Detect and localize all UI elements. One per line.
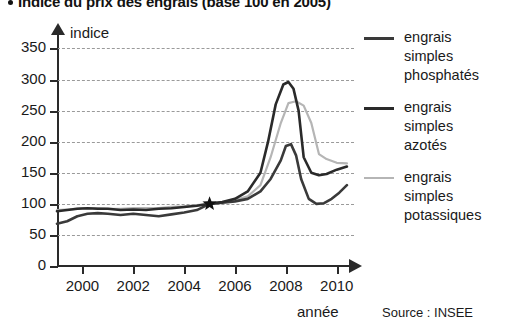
- y-tick-250: [50, 111, 58, 113]
- series-line-0: [57, 144, 347, 224]
- y-axis-line: [57, 33, 59, 266]
- y-tick-350: [50, 48, 58, 50]
- gridline-y-250: [57, 111, 354, 112]
- gridline-y-300: [57, 80, 354, 81]
- chart-title-strip: Indice du prix des engrais (base 100 en …: [0, 0, 519, 13]
- x-tick-2010: [337, 267, 339, 274]
- legend-label-line: phosphatés: [404, 66, 516, 85]
- y-axis-title: indice: [70, 24, 109, 41]
- x-axis-arrow-icon: [349, 259, 362, 273]
- bullet-icon: [8, 0, 13, 5]
- legend-item-0[interactable]: engraissimplesphosphatés: [364, 28, 516, 85]
- y-axis-arrow-icon: [51, 23, 65, 35]
- legend-label-line: simples: [404, 47, 516, 66]
- x-tick-2000: [82, 267, 84, 274]
- source-note: Source : INSEE: [382, 305, 473, 320]
- legend-label-line: azotés: [404, 136, 516, 155]
- y-tick-300: [50, 80, 58, 82]
- chart-title-text: Indice du prix des engrais (base 100 en …: [18, 0, 331, 10]
- x-tick-label-2010: 2010: [307, 277, 367, 294]
- legend-swatch-1: [364, 107, 394, 110]
- legend-label-0: engraissimplesphosphatés: [404, 28, 516, 85]
- legend-label-line: engrais: [404, 28, 516, 47]
- y-tick-200: [50, 142, 58, 144]
- y-tick-label-350: 350: [4, 38, 46, 55]
- legend-swatch-2: [364, 177, 394, 179]
- gridline-y-200: [57, 142, 354, 143]
- series-line-2: [57, 101, 347, 210]
- legend-item-1[interactable]: engraissimplesazotés: [364, 98, 516, 155]
- x-axis-line: [57, 265, 352, 267]
- x-tick-2006: [235, 267, 237, 274]
- gridline-y-350: [57, 48, 354, 49]
- y-tick-label-100: 100: [4, 194, 46, 211]
- gridline-y-150: [57, 173, 354, 174]
- y-tick-label-200: 200: [4, 132, 46, 149]
- x-tick-2008: [286, 267, 288, 274]
- legend-swatch-0: [364, 37, 394, 40]
- y-tick-100: [50, 204, 58, 206]
- page-title: Indice du prix des engrais (base 100 en …: [8, 0, 331, 10]
- legend-label-1: engraissimplesazotés: [404, 98, 516, 155]
- legend-label-line: engrais: [404, 98, 516, 117]
- y-tick-label-150: 150: [4, 163, 46, 180]
- y-tick-0: [50, 266, 58, 268]
- y-tick-label-250: 250: [4, 101, 46, 118]
- gridline-y-50: [57, 235, 354, 236]
- legend-label-line: simples: [404, 187, 516, 206]
- legend-label-2: engraissimplespotassiques: [404, 168, 516, 225]
- gridline-y-100: [57, 204, 354, 205]
- legend-label-line: simples: [404, 117, 516, 136]
- x-axis-title: année: [297, 303, 339, 320]
- legend-label-line: engrais: [404, 168, 516, 187]
- legend-item-2[interactable]: engraissimplespotassiques: [364, 168, 516, 225]
- chart-legend: engraissimplesphosphatésengraissimplesaz…: [364, 28, 516, 238]
- x-tick-2004: [184, 267, 186, 274]
- y-tick-label-300: 300: [4, 70, 46, 87]
- y-tick-label-50: 50: [4, 225, 46, 242]
- y-tick-50: [50, 235, 58, 237]
- legend-label-line: potassiques: [404, 206, 516, 225]
- x-tick-2002: [133, 267, 135, 274]
- y-tick-label-0: 0: [4, 256, 46, 273]
- y-tick-150: [50, 173, 58, 175]
- series-line-1: [57, 82, 347, 211]
